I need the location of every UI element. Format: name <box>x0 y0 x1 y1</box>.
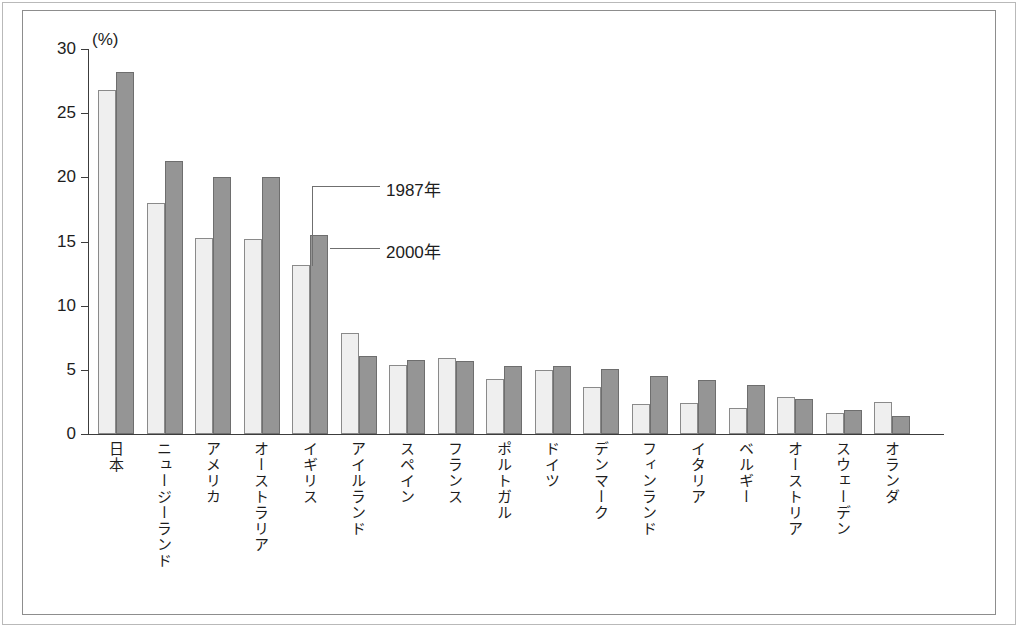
bar-1987年-ベルギー <box>729 408 747 434</box>
bar-1987年-日本 <box>98 90 116 434</box>
bar-1987年-オーストラリア <box>244 239 262 434</box>
chart-figure: (%) 051015202530 日本ニュージーランドアメリカオーストラリアイギ… <box>0 0 1018 627</box>
bar-2000年-イタリア <box>698 380 716 434</box>
bar-2000年-アメリカ <box>213 177 231 434</box>
y-tick-25 <box>81 113 88 114</box>
bar-2000年-フランス <box>456 361 474 434</box>
category-label-アメリカ: アメリカ <box>205 441 220 505</box>
bar-2000年-フィンランド <box>650 376 668 434</box>
y-tick-10 <box>81 306 88 307</box>
bar-1987年-ニュージーランド <box>147 203 165 434</box>
y-tick-label-10: 10 <box>30 297 76 314</box>
bar-1987年-ドイツ <box>535 370 553 434</box>
bar-2000年-スウェーデン <box>844 410 862 434</box>
bar-2000年-ニュージーランド <box>165 161 183 434</box>
legend-leader-1987-vertical <box>312 186 313 266</box>
category-label-ドイツ: ドイツ <box>545 441 560 489</box>
category-label-アイルランド: アイルランド <box>351 441 366 537</box>
category-label-スペイン: スペイン <box>399 441 414 505</box>
bar-1987年-オーストリア <box>777 397 795 434</box>
category-label-フィンランド: フィンランド <box>642 441 657 537</box>
category-label-デンマーク: デンマーク <box>593 441 608 521</box>
category-label-スウェーデン: スウェーデン <box>836 441 851 537</box>
y-tick-5 <box>81 370 88 371</box>
legend-leader-1987-horizontal <box>312 186 380 187</box>
category-label-ニュージーランド: ニュージーランド <box>157 441 172 569</box>
y-tick-20 <box>81 177 88 178</box>
bar-2000年-アイルランド <box>359 356 377 434</box>
bar-2000年-オランダ <box>892 416 910 434</box>
bar-1987年-スウェーデン <box>826 413 844 434</box>
bar-2000年-デンマーク <box>601 369 619 434</box>
y-tick-label-20: 20 <box>30 168 76 185</box>
y-tick-label-25: 25 <box>30 104 76 121</box>
legend-leader-2000-horizontal <box>330 248 380 249</box>
bar-2000年-ドイツ <box>553 366 571 434</box>
bar-1987年-デンマーク <box>583 387 601 434</box>
bar-2000年-ベルギー <box>747 385 765 434</box>
category-label-イギリス: イギリス <box>302 441 317 505</box>
y-axis-unit-label: (%) <box>92 30 118 50</box>
category-label-日本: 日本 <box>108 441 123 473</box>
bar-1987年-イギリス <box>292 265 310 434</box>
legend-label-1987: 1987年 <box>386 176 441 201</box>
y-tick-label-15: 15 <box>30 233 76 250</box>
bar-1987年-アイルランド <box>341 333 359 434</box>
bar-1987年-イタリア <box>680 403 698 434</box>
legend-label-2000: 2000年 <box>386 238 441 263</box>
bar-1987年-フィンランド <box>632 404 650 434</box>
category-label-フランス: フランス <box>448 441 463 505</box>
bar-1987年-オランダ <box>874 402 892 434</box>
bar-1987年-ポルトガル <box>486 379 504 434</box>
category-label-オーストリア: オーストリア <box>787 441 802 537</box>
y-tick-label-0: 0 <box>30 425 76 442</box>
category-label-オランダ: オランダ <box>884 441 899 505</box>
category-label-イタリア: イタリア <box>690 441 705 505</box>
category-label-オーストラリア: オーストラリア <box>254 441 269 553</box>
bar-1987年-スペイン <box>389 365 407 434</box>
y-tick-label-30: 30 <box>30 40 76 57</box>
y-tick-0 <box>81 434 88 435</box>
bar-2000年-スペイン <box>407 360 425 434</box>
bar-1987年-アメリカ <box>195 238 213 434</box>
plot-area: (%) 051015202530 日本ニュージーランドアメリカオーストラリアイギ… <box>0 0 1018 627</box>
x-axis-line <box>88 434 944 435</box>
bar-2000年-ポルトガル <box>504 366 522 434</box>
y-axis-line <box>88 49 89 435</box>
y-tick-15 <box>81 242 88 243</box>
y-tick-30 <box>81 49 88 50</box>
bar-2000年-オーストラリア <box>262 177 280 434</box>
category-label-ベルギー: ベルギー <box>739 441 754 505</box>
bar-1987年-フランス <box>438 358 456 434</box>
category-label-ポルトガル: ポルトガル <box>496 441 511 521</box>
bar-2000年-オーストリア <box>795 399 813 434</box>
y-tick-label-5: 5 <box>30 361 76 378</box>
bar-2000年-日本 <box>116 72 134 434</box>
